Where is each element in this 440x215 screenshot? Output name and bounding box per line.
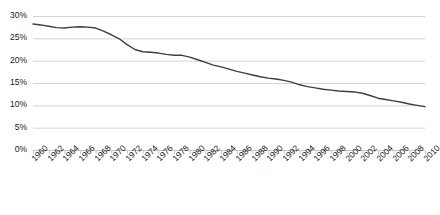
chart-canvas	[0, 0, 440, 215]
line-chart: 0%5%10%15%20%25%30% 19601962196419661968…	[0, 0, 440, 215]
gridlines	[33, 17, 425, 151]
series-line	[33, 24, 425, 107]
y-axis-tick-label: 20%	[0, 56, 27, 65]
y-axis-tick-label: 5%	[0, 123, 27, 132]
y-axis-tick-label: 30%	[0, 11, 27, 20]
y-axis-tick-label: 10%	[0, 100, 27, 109]
data-series	[33, 24, 425, 107]
y-axis-tick-label: 15%	[0, 78, 27, 87]
y-axis-tick-label: 25%	[0, 33, 27, 42]
y-axis-tick-label: 0%	[0, 145, 27, 154]
